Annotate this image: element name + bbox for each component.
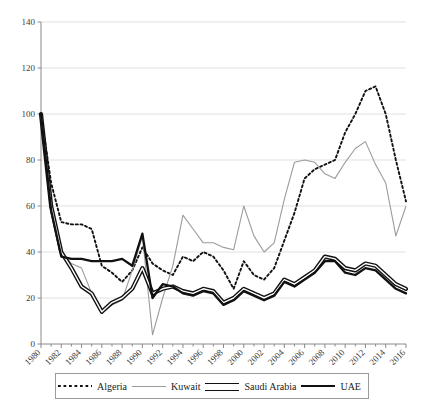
svg-text:60: 60 (26, 201, 36, 211)
legend-item-algeria: Algeria (58, 381, 132, 392)
series-uae (41, 114, 406, 305)
svg-text:2016: 2016 (388, 347, 408, 365)
svg-text:1992: 1992 (144, 347, 164, 365)
svg-text:1990: 1990 (124, 347, 144, 365)
svg-text:2008: 2008 (307, 347, 327, 365)
svg-text:1984: 1984 (63, 347, 83, 365)
svg-text:2010: 2010 (327, 347, 347, 365)
svg-text:1980: 1980 (23, 347, 43, 365)
svg-text:2000: 2000 (225, 347, 245, 365)
legend-item-uae: UAE (301, 381, 366, 392)
plot-area: 020406080100120140 198019821984198619881… (0, 0, 422, 365)
svg-text:20: 20 (26, 293, 36, 303)
line-chart-svg: 020406080100120140 198019821984198619881… (0, 0, 422, 365)
legend-item-saudi-arabia: Saudi Arabia (205, 381, 301, 392)
svg-text:1998: 1998 (205, 347, 225, 365)
legend-swatch-saudi-arabia (205, 381, 239, 391)
legend-label-algeria: Algeria (92, 381, 132, 392)
legend-label-uae: UAE (335, 381, 366, 392)
chart-legend: Algeria Kuwait Saudi Arabia UAE (55, 373, 369, 399)
legend-label-kuwait: Kuwait (166, 381, 205, 392)
svg-text:1996: 1996 (185, 347, 205, 365)
legend-label-saudi-arabia: Saudi Arabia (239, 381, 301, 392)
svg-text:2012: 2012 (347, 347, 367, 365)
svg-text:2002: 2002 (246, 347, 266, 365)
legend-swatch-uae (301, 381, 335, 391)
svg-text:2014: 2014 (367, 347, 387, 365)
series-algeria (41, 86, 406, 288)
x-tick-labels: 1980198219841986198819901992199419961998… (23, 347, 408, 365)
chart-figure: 020406080100120140 198019821984198619881… (0, 0, 422, 413)
gridlines (41, 22, 406, 298)
legend-swatch-kuwait (132, 381, 166, 391)
svg-text:1988: 1988 (104, 347, 124, 365)
svg-text:120: 120 (22, 63, 36, 73)
series-layer (41, 86, 406, 334)
svg-text:80: 80 (26, 155, 36, 165)
legend-item-kuwait: Kuwait (132, 381, 205, 392)
svg-text:2004: 2004 (266, 347, 286, 365)
svg-text:1994: 1994 (165, 347, 185, 365)
svg-text:140: 140 (22, 17, 36, 27)
legend-swatch-algeria (58, 381, 92, 391)
svg-text:40: 40 (26, 247, 36, 257)
svg-text:1982: 1982 (43, 347, 63, 365)
y-axis: 020406080100120140 (22, 17, 42, 349)
svg-text:1986: 1986 (83, 347, 103, 365)
svg-text:100: 100 (22, 109, 36, 119)
series-saudi-arabia (41, 114, 406, 312)
svg-text:2006: 2006 (286, 347, 306, 365)
